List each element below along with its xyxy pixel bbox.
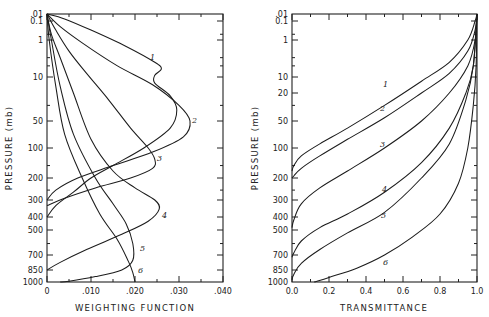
x-tick-label: 0.4 [360, 287, 373, 296]
transmittance-curve-4 [292, 14, 477, 257]
weighting-and-transmittance-charts: 0.010.020.030.040.010.111050100200300400… [0, 0, 489, 317]
weighting-curve-6 [47, 14, 135, 282]
right-x-axis-label: TRANSMITTANCE [339, 303, 428, 313]
y-tick-label: 200 [28, 174, 43, 183]
y-tick-label: 0.1 [30, 17, 43, 26]
curve-label: 2 [379, 104, 385, 113]
y-tick-label: 850 [28, 266, 43, 275]
x-tick-label: .010 [82, 287, 100, 296]
y-tick-label: 20 [278, 89, 288, 98]
y-tick-label: 500 [273, 226, 288, 235]
y-tick-label: 850 [273, 266, 288, 275]
weighting-curve-5 [47, 14, 134, 282]
y-tick-label: 0.1 [275, 17, 288, 26]
transmittance-curve-2 [292, 14, 477, 178]
x-tick-label: 0.6 [397, 287, 410, 296]
left-x-axis-label: WEIGHTING FUNCTION [75, 303, 195, 313]
transmittance-plot: 0.00.20.40.60.81.0.010.11102050100200300… [250, 10, 483, 313]
y-tick-label: 10 [33, 73, 43, 82]
transmittance-curve-3 [292, 14, 477, 228]
right-plot-ticks: 0.00.20.40.60.81.0.010.11102050100200300… [268, 10, 484, 296]
y-tick-label: 50 [33, 117, 43, 126]
y-tick-label: 300 [273, 196, 288, 205]
curve-label: 2 [191, 116, 197, 125]
right-y-axis-label: PRESSURE (mb) [250, 106, 260, 191]
y-tick-label: 500 [28, 226, 43, 235]
curve-label: 4 [161, 211, 167, 220]
y-tick-label: 400 [28, 213, 43, 222]
x-tick-label: 0.2 [323, 287, 336, 296]
curve-label: 1 [383, 80, 388, 89]
curve-label: 6 [383, 258, 388, 267]
y-tick-label: 300 [28, 196, 43, 205]
y-tick-label: 50 [278, 117, 288, 126]
y-tick-label: 10 [278, 73, 288, 82]
y-tick-label: 1000 [23, 278, 43, 287]
x-tick-label: 1.0 [471, 287, 484, 296]
y-tick-label: 100 [273, 144, 288, 153]
weighting-curve-2 [47, 14, 190, 200]
weighting-curve-1 [47, 14, 177, 217]
y-tick-label: 700 [273, 251, 288, 260]
transmittance-curve-6 [314, 14, 477, 282]
left-plot-curves [47, 14, 190, 282]
curve-label: 5 [140, 244, 145, 253]
x-tick-label: .030 [170, 287, 188, 296]
y-tick-label: 1 [38, 36, 43, 45]
y-tick-label: 700 [28, 251, 43, 260]
left-plot-frame [47, 14, 223, 282]
y-tick-label: 100 [28, 144, 43, 153]
curve-label: 3 [157, 154, 162, 163]
curve-label: 1 [150, 53, 155, 62]
left-plot-curve-labels: 123456 [138, 53, 197, 275]
weighting-curve-3 [47, 14, 155, 206]
left-y-axis-label: PRESSURE (mb) [4, 106, 14, 191]
weighting-function-plot: 0.010.020.030.040.010.111050100200300400… [4, 10, 232, 313]
x-tick-label: 0.8 [434, 287, 447, 296]
curve-label: 5 [381, 211, 386, 220]
y-tick-label: 400 [273, 213, 288, 222]
curve-label: 4 [381, 185, 387, 194]
x-tick-label: 0.0 [286, 287, 299, 296]
curve-label: 6 [138, 266, 143, 275]
y-tick-label: 1000 [268, 278, 288, 287]
right-plot-curve-labels: 123456 [379, 80, 388, 267]
curve-label: 3 [380, 140, 385, 149]
x-tick-label: .020 [126, 287, 144, 296]
x-tick-label: .040 [214, 287, 232, 296]
x-tick-label: 0 [44, 287, 49, 296]
y-tick-label: 1 [283, 36, 288, 45]
y-tick-label: 200 [273, 174, 288, 183]
